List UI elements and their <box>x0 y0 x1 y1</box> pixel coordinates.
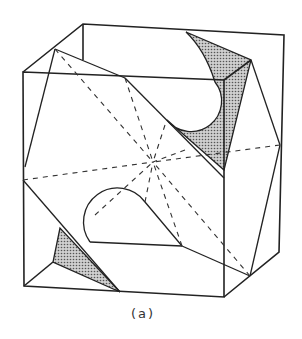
cube-diagram <box>0 0 302 339</box>
figure-caption: (a) <box>118 306 168 321</box>
shaded-region-top-right <box>167 32 251 170</box>
shaded-region-bottom-left <box>53 228 120 292</box>
